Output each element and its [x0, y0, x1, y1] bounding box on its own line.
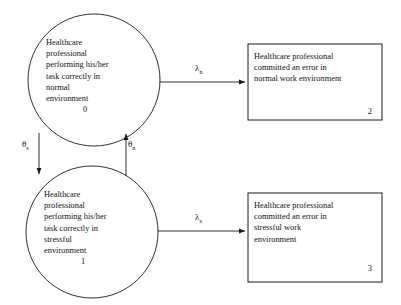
- transition-label-theta-n: θn: [128, 139, 135, 151]
- theta-s-subscript: s: [26, 144, 28, 151]
- transition-label-theta-s: θs: [22, 139, 29, 151]
- state-2-id: 2: [254, 106, 372, 117]
- state-3-id: 3: [254, 263, 372, 274]
- state-1-label: Healthcare professional performing his/h…: [44, 189, 122, 256]
- state-1-id: 1: [44, 256, 122, 267]
- transition-label-lambda-n: λn: [195, 63, 202, 75]
- diagram-canvas: Healthcare professional performing his/h…: [0, 0, 401, 305]
- lambda-n-subscript: n: [199, 68, 202, 75]
- state-0-label: Healthcare professional performing his/h…: [46, 37, 124, 104]
- theta-n-subscript: n: [132, 144, 135, 151]
- transition-label-lambda-s: λs: [195, 212, 202, 224]
- state-3-label: Healthcare professional committed an err…: [254, 200, 374, 245]
- state-0-id: 0: [46, 104, 124, 115]
- state-2-label: Healthcare professional committed an err…: [254, 51, 374, 85]
- lambda-s-subscript: s: [199, 217, 201, 224]
